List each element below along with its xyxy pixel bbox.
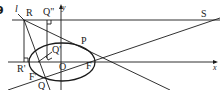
label-r-prime: R' xyxy=(17,63,26,74)
label-f: F xyxy=(86,60,92,71)
label-q: Q xyxy=(38,80,46,90)
figure-number: 9 xyxy=(0,4,4,17)
label-q-prime: Q' xyxy=(52,44,61,55)
label-directrix: l xyxy=(15,3,18,14)
label-q-double-prime: Q" xyxy=(43,6,54,17)
label-x-axis: x xyxy=(212,63,217,72)
label-y-axis: y xyxy=(61,3,66,12)
label-r: R xyxy=(26,7,33,18)
q-prime-segment xyxy=(38,52,52,62)
right-angle-mark-r-prime xyxy=(24,58,28,62)
label-o: O xyxy=(59,61,66,72)
label-f-prime: F' xyxy=(29,71,37,82)
right-angle-mark-q2 xyxy=(47,20,51,24)
label-p: P xyxy=(81,35,87,46)
ellipse-diagram: 9 l R Q" y S P Q' R' O F F' Q x xyxy=(0,0,220,90)
directrix-tick xyxy=(18,14,24,20)
label-s: S xyxy=(201,8,207,19)
